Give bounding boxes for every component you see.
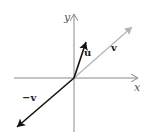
x-axis-label: x [134,81,141,94]
vector-neg-v-label: −v [22,92,37,103]
vector-u-label: u [84,47,91,58]
vector-diagram: x y v u −v [0,0,152,140]
y-axis-label: y [63,11,71,24]
vector-v-label: v [110,42,118,53]
